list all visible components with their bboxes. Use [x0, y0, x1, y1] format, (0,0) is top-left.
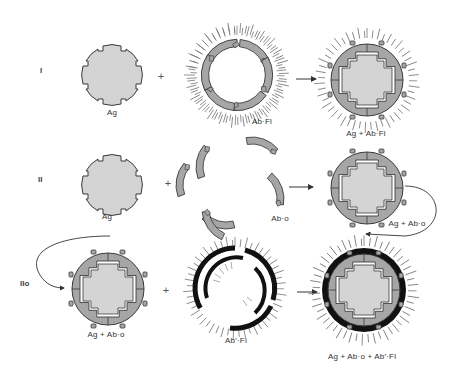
unlabeled-complex [328, 149, 406, 227]
row-label-II: II [38, 175, 42, 184]
row-I [82, 14, 420, 136]
label-ag: Ag [102, 212, 112, 221]
row-label-IIo: IIo [20, 279, 29, 288]
antigen-shape [82, 45, 143, 106]
label-ag-ab-o: Ag + Ab·o [87, 330, 124, 339]
label-ag: Ag [107, 108, 117, 117]
label-ab-o: Ab·o [271, 214, 289, 223]
row-label-I: I [40, 66, 42, 75]
fluorescent-antibody-ring [176, 14, 298, 136]
plus-operator: + [165, 177, 171, 189]
label-ag-ab-o: Ag + Ab·o [388, 219, 425, 228]
fluorescent-secondary-antibody-ring [183, 237, 286, 340]
label-ag-ab-fl: Ag + Ab·Fl [346, 129, 386, 138]
plus-operator: + [158, 70, 164, 82]
row-II [82, 132, 437, 239]
plus-operator: + [163, 284, 169, 296]
label-ab-prime-fl: Ab′·Fl [225, 336, 247, 345]
label-ag-ab-o-ab-prime-fl: Ag + Ab·o + Ab′·Fl [328, 352, 396, 361]
antigen-shape [82, 155, 143, 216]
diagram-canvas: I II IIo + + + Ag Ab·Fl Ag + Ab·Fl Ag Ab… [0, 0, 468, 377]
fluorescent-complex [314, 28, 419, 133]
unlabeled-complex [69, 250, 147, 328]
unlabeled-antibody-fragments [168, 132, 294, 239]
sandwich-fluorescent-complex [308, 235, 419, 345]
label-ab-fl: Ab·Fl [252, 117, 272, 126]
